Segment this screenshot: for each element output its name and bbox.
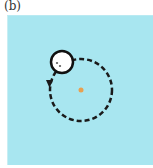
direction-arrow-icon: [46, 80, 53, 88]
center-point: [79, 88, 84, 93]
ball-mark: [56, 62, 58, 64]
orbit-diagram: [0, 0, 153, 168]
orbiting-ball: [51, 51, 73, 73]
ball-mark: [59, 65, 61, 67]
